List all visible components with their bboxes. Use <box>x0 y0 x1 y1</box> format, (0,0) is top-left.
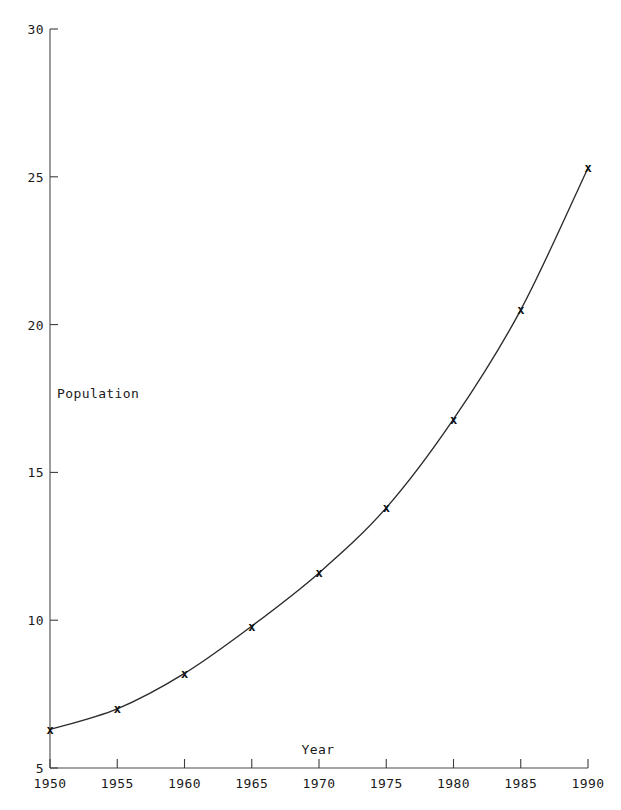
x-tick-label-1985: 1985 <box>504 776 537 791</box>
x-tick-label-1955: 1955 <box>101 776 134 791</box>
x-tick-label-1950: 1950 <box>34 776 67 791</box>
data-point-1975: x <box>383 501 390 515</box>
data-point-1960: x <box>181 667 188 681</box>
x-tick-label-1980: 1980 <box>437 776 470 791</box>
y-tick-label-25: 25 <box>28 170 44 185</box>
x-tick-label-1975: 1975 <box>370 776 403 791</box>
x-tick-label-1990: 1990 <box>572 776 605 791</box>
data-point-1950: x <box>46 723 53 737</box>
x-tick-label-1960: 1960 <box>168 776 201 791</box>
data-markers: xxxxxxxxx <box>46 161 591 737</box>
data-point-1965: x <box>248 620 255 634</box>
population-line-chart: 51015202530 1950195519601965197019751980… <box>0 0 621 810</box>
data-point-1970: x <box>315 566 322 580</box>
y-tick-labels: 51015202530 <box>28 22 44 776</box>
data-curve <box>50 168 588 730</box>
y-axis-title: Population <box>57 386 139 401</box>
y-tick-label-20: 20 <box>28 318 44 333</box>
x-tick-label-1970: 1970 <box>303 776 336 791</box>
data-point-1990: x <box>584 161 591 175</box>
x-tick-label-1965: 1965 <box>235 776 268 791</box>
y-tick-label-5: 5 <box>36 761 44 776</box>
x-tick-labels: 195019551960196519701975198019851990 <box>34 776 605 791</box>
data-point-1985: x <box>517 303 524 317</box>
x-tick-marks <box>50 759 588 768</box>
y-tick-label-10: 10 <box>28 613 44 628</box>
data-point-1980: x <box>450 413 457 427</box>
y-tick-label-15: 15 <box>28 465 44 480</box>
y-tick-label-30: 30 <box>28 22 44 37</box>
x-axis-title: Year <box>302 742 335 757</box>
chart-page: 51015202530 1950195519601965197019751980… <box>0 0 621 810</box>
data-point-1955: x <box>114 702 121 716</box>
